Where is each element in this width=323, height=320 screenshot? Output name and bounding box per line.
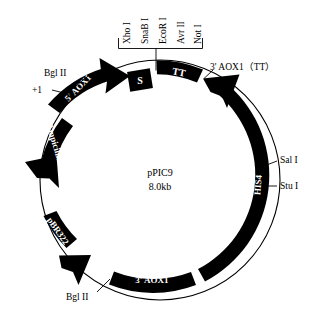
- segment-tt-label: TT: [171, 65, 187, 78]
- callout-plus-one-label: +1: [32, 85, 42, 95]
- plasmid-size-label: 8.0kb: [149, 181, 172, 192]
- segment-aox1-3prime: 3' AOX1: [109, 272, 196, 293]
- callout-sal1-label: Sal I: [280, 155, 298, 165]
- callout-bgl2-bottom-leader: [97, 279, 110, 292]
- restriction-enzyme-not1: Not I: [193, 24, 203, 44]
- plasmid-map-figure: 5' AOX1 S TT HIS4 3' AOX1 pBR322: [0, 0, 323, 320]
- segment-ampicillin: Ampicillin: [25, 118, 73, 188]
- restriction-enzyme-avr2: Avr II: [176, 21, 186, 44]
- callout-bgl2-top-label: Bgl II: [44, 68, 66, 78]
- segment-tt: TT: [157, 60, 204, 82]
- segment-ampicillin-arrowhead: [25, 156, 59, 189]
- restriction-enzyme-snab1: SnaB I: [140, 18, 150, 44]
- callout-aox1-3prime-tt: 3' AOX1（TT）: [204, 61, 275, 79]
- segment-aox1-5prime-arrowhead: [100, 58, 131, 94]
- callout-aox1-3prime-tt-label: 3' AOX1（TT）: [210, 61, 275, 72]
- restriction-enzyme-labels: Xho I SnaB I EcoR I Avr II Not I: [122, 17, 203, 44]
- segment-signal-peptide-label: S: [137, 75, 143, 86]
- segment-signal-peptide: S: [127, 68, 153, 91]
- segment-pbr322-arrowhead: [59, 255, 91, 285]
- segment-aox1-3prime-label: 3' AOX1: [135, 275, 169, 285]
- callout-stu1: Stu I: [265, 181, 298, 191]
- segment-his4-label: HIS4: [252, 174, 263, 195]
- segment-his4: HIS4: [198, 75, 269, 282]
- plasmid-center-title: pPIC9 8.0kb: [147, 167, 173, 192]
- plasmid-map-svg: 5' AOX1 S TT HIS4 3' AOX1 pBR322: [0, 0, 323, 320]
- plasmid-name-label: pPIC9: [147, 167, 173, 178]
- segment-pbr322: pBR322: [44, 211, 92, 285]
- callout-sal1: Sal I: [264, 155, 298, 166]
- restriction-enzyme-ecor1: EcoR I: [158, 17, 168, 44]
- restriction-enzyme-xho1: Xho I: [122, 22, 132, 44]
- callout-bgl2-bottom: Bgl II: [66, 279, 110, 302]
- callout-stu1-label: Stu I: [280, 181, 298, 191]
- segment-aox1-5prime: 5' AOX1: [48, 58, 130, 113]
- callout-bgl2-bottom-label: Bgl II: [66, 292, 88, 302]
